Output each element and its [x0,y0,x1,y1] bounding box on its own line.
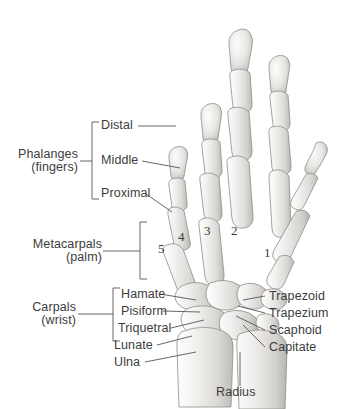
finger-5-bones [163,146,200,305]
group-label-carpals: Carpals (wrist) [16,301,76,327]
label-proximal: Proximal [101,187,150,200]
metacarpal-number-4: 4 [178,229,185,245]
label-radius: Radius [216,386,256,399]
group-label-metacarpals: Metacarpals (palm) [10,238,102,264]
group-label-phalanges-sub: (fingers) [14,161,78,174]
label-distal: Distal [101,119,133,132]
label-triquetral: Triquetral [118,322,171,335]
group-label-carpals-sub: (wrist) [16,314,76,327]
label-capitate: Capitate [269,341,316,354]
label-trapezium: Trapezium [269,307,328,320]
finger-4-bones [199,103,224,285]
finger-2-bones [269,55,291,237]
label-ulna: Ulna [114,356,140,369]
label-middle: Middle [101,154,138,167]
label-trapezoid: Trapezoid [269,290,325,303]
metacarpal-number-5: 5 [158,241,165,257]
group-label-phalanges: Phalanges (fingers) [14,148,78,174]
group-label-metacarpals-sub: (palm) [10,251,102,264]
label-pisiform: Pisiform [121,305,167,318]
metacarpal-number-2: 2 [231,223,238,239]
finger-3-bones [227,29,253,228]
label-scaphoid: Scaphoid [269,324,322,337]
metacarpal-number-1: 1 [264,245,271,261]
label-lunate: Lunate [114,339,153,352]
metacarpal-number-3: 3 [204,223,211,239]
label-hamate: Hamate [121,288,165,301]
